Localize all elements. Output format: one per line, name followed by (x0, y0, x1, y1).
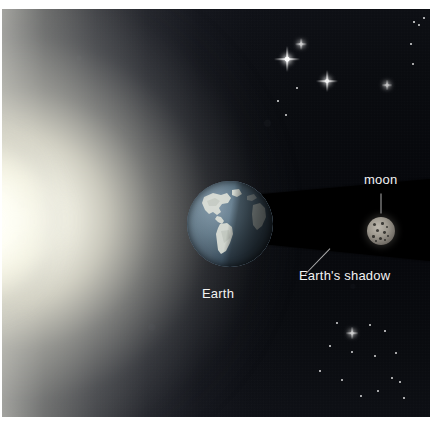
moon-leader-line (381, 194, 382, 214)
space-background: moon Earth Earth's shadow (2, 9, 430, 417)
moon-crater (387, 235, 389, 237)
star-dot (423, 17, 425, 19)
star-dot (391, 377, 393, 379)
earth (187, 181, 273, 267)
star-dot (374, 355, 376, 357)
star-dot (395, 352, 397, 354)
star-dot (351, 351, 353, 353)
moon-crater (383, 231, 386, 234)
label-moon: moon (364, 172, 397, 187)
star-dot (399, 381, 401, 383)
star-dot (319, 370, 321, 372)
earth-limb-highlight (187, 181, 273, 267)
moon-crater (379, 237, 382, 240)
star-dot (403, 397, 405, 399)
lunar-eclipse-figure: moon Earth Earth's shadow (0, 0, 432, 422)
star-dot (341, 379, 343, 381)
label-earths-shadow: Earth's shadow (299, 268, 390, 283)
star-dot (296, 87, 298, 89)
moon-crater (372, 235, 375, 238)
moon-crater (384, 239, 386, 241)
star-dot (285, 114, 287, 116)
star-dot (418, 24, 420, 26)
label-earth: Earth (202, 286, 234, 301)
star-dot (360, 395, 362, 397)
moon-crater (375, 240, 377, 242)
moon-crater (376, 229, 379, 232)
moon (367, 217, 395, 245)
star-dot (336, 322, 338, 324)
star-dot (369, 324, 371, 326)
moon-crater (373, 223, 376, 226)
star-dot (412, 63, 414, 65)
star-dot (410, 43, 412, 45)
star-dot (329, 345, 331, 347)
moon-crater (386, 226, 388, 228)
moon-crater (381, 222, 384, 225)
star-dot (377, 390, 379, 392)
